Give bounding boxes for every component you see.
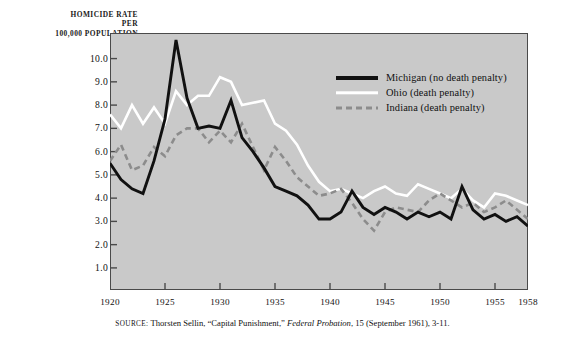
x-tick-label: 1950 xyxy=(420,297,460,307)
y-tick-label: 2.0 xyxy=(62,239,108,250)
x-tick-label: 1920 xyxy=(90,297,130,307)
y-tick-label: 1.0 xyxy=(62,262,108,273)
y-tick-label: 7.0 xyxy=(62,122,108,133)
source-citation: , 15 (September 1961), 3-11. xyxy=(351,318,450,328)
x-tick-label: 1930 xyxy=(200,297,240,307)
y-tick-label: 10.0 xyxy=(62,53,108,64)
x-tick-label: 1945 xyxy=(365,297,405,307)
x-axis-tick-labels: 192019251930193519401945195019551958 xyxy=(0,297,565,313)
x-tick-label: 1958 xyxy=(508,297,548,307)
legend-label: Indiana (death penalty) xyxy=(386,102,485,113)
legend-label: Ohio (death penalty) xyxy=(386,87,474,98)
y-tick-label: 8.0 xyxy=(62,99,108,110)
series-line xyxy=(110,124,528,231)
y-tick-label: 9.0 xyxy=(62,76,108,87)
legend-item: Ohio (death penalty) xyxy=(336,85,536,100)
legend-swatch-icon xyxy=(336,102,378,113)
source-author: Thorsten Sellin, “Capital Punishment,” xyxy=(149,318,288,328)
chart-legend: Michigan (no death penalty)Ohio (death p… xyxy=(336,70,536,115)
source-label: source: xyxy=(115,320,148,328)
y-tick-label: 5.0 xyxy=(62,169,108,180)
series-line xyxy=(110,40,528,226)
legend-item: Michigan (no death penalty) xyxy=(336,70,536,85)
y-tick-label: 6.0 xyxy=(62,146,108,157)
y-axis-tick-labels: 1.02.03.04.05.06.07.08.09.010.0 xyxy=(52,0,108,339)
x-tick-label: 1925 xyxy=(145,297,185,307)
y-tick-label: 4.0 xyxy=(62,192,108,203)
source-journal: Federal Probation xyxy=(287,318,351,328)
legend-swatch-icon xyxy=(336,87,378,98)
legend-label: Michigan (no death penalty) xyxy=(386,72,507,83)
legend-item: Indiana (death penalty) xyxy=(336,100,536,115)
x-tick-label: 1935 xyxy=(255,297,295,307)
figure-homicide-rate-chart: HOMICIDE RATE PER 100,000 POPULATION 1.0… xyxy=(0,0,565,339)
x-tick-label: 1940 xyxy=(310,297,350,307)
source-note: source: Thorsten Sellin, “Capital Punish… xyxy=(0,318,565,328)
y-tick-label: 3.0 xyxy=(62,215,108,226)
legend-swatch-icon xyxy=(336,72,378,83)
